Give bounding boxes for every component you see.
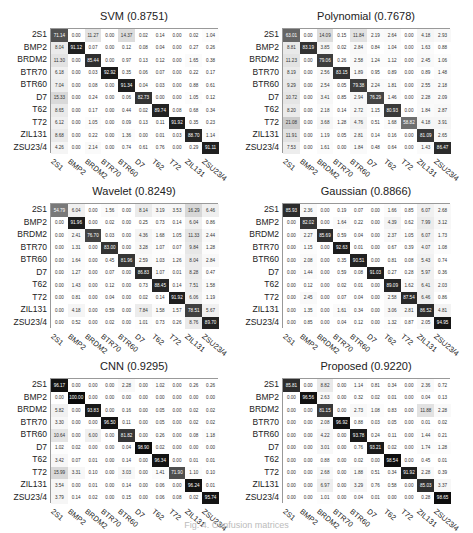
heatmap-cell: 0.06 xyxy=(118,92,135,105)
y-axis-label: 2S1 xyxy=(1,29,47,39)
heatmap-cell: 63.01 xyxy=(283,29,300,42)
heatmap-cell: 0.76 xyxy=(367,479,384,492)
heatmap-cell: 0.00 xyxy=(101,54,118,67)
heatmap-cell: 0.16 xyxy=(384,129,401,142)
y-axis-label: BRDM2 xyxy=(233,404,279,414)
heatmap-cell: 0.00 xyxy=(101,79,118,92)
heatmap-cell: 0.00 xyxy=(401,67,418,80)
heatmap-cell: 8.04 xyxy=(185,254,202,267)
heatmap-cell: 0.81 xyxy=(367,379,384,392)
heatmap-cell: 0.00 xyxy=(367,217,384,230)
heatmap-cell: 0.07 xyxy=(333,292,350,305)
heatmap-cell: 93.78 xyxy=(350,429,367,442)
heatmap-cell: 1.18 xyxy=(202,429,219,442)
heatmap-cell: 0.00 xyxy=(68,479,85,492)
heatmap-cell: 0.00 xyxy=(401,392,418,405)
heatmap-cell: 92.63 xyxy=(333,242,350,255)
heatmap-cell: 88.70 xyxy=(185,129,202,142)
heatmap-cell: 0.01 xyxy=(85,479,102,492)
heatmap-cell: 79.06 xyxy=(317,54,334,67)
heatmap-cell: 3.31 xyxy=(68,467,85,480)
heatmap-cell: 0.06 xyxy=(152,492,169,505)
heatmap-cell: 93.83 xyxy=(85,404,102,417)
heatmap-cell: 0.00 xyxy=(333,442,350,455)
y-axis-label: BMP2 xyxy=(1,217,47,227)
heatmap-cell: 0.00 xyxy=(283,404,300,417)
heatmap-cell: 0.05 xyxy=(333,129,350,142)
heatmap-cell: 2.45 xyxy=(417,54,434,67)
heatmap-cell: 3.28 xyxy=(135,242,152,255)
y-axis-label: T72 xyxy=(1,292,47,302)
heatmap-cell: 0.04 xyxy=(333,317,350,330)
heatmap-cell: 0.84 xyxy=(367,42,384,55)
chart-title: Wavelet (0.8249) xyxy=(50,185,218,197)
heatmap-grid: 63.010.0014.090.1511.842.192.640.004.182… xyxy=(282,28,450,153)
heatmap-cell: 1.06 xyxy=(434,54,451,67)
heatmap-cell: 0.14 xyxy=(367,129,384,142)
heatmap-cell: 0.04 xyxy=(101,292,118,305)
y-axis-label: ZIL131 xyxy=(1,129,47,139)
heatmap-cell: 0.00 xyxy=(101,129,118,142)
heatmap-cell: 0.00 xyxy=(68,429,85,442)
heatmap-cell: 0.00 xyxy=(401,142,418,155)
heatmap-cell: 0.00 xyxy=(401,42,418,55)
heatmap-cell: 1.74 xyxy=(417,442,434,455)
heatmap-cell: 7.51 xyxy=(185,279,202,292)
heatmap-cell: 0.00 xyxy=(300,417,317,430)
y-axis-label: D7 xyxy=(1,92,47,102)
heatmap-cell: 0.11 xyxy=(118,417,135,430)
heatmap-cell: 1.07 xyxy=(152,267,169,280)
heatmap-cell: 89.70 xyxy=(202,317,219,330)
heatmap-cell: 8.19 xyxy=(283,67,300,80)
y-axis-label: BTR60 xyxy=(233,254,279,264)
heatmap-cell: 5.82 xyxy=(51,404,68,417)
heatmap-cell: 11.33 xyxy=(185,229,202,242)
heatmap-cell: 0.00 xyxy=(169,404,186,417)
heatmap-cell: 1.01 xyxy=(317,492,334,505)
heatmap-cell: 0.32 xyxy=(350,392,367,405)
heatmap-cell: 86.83 xyxy=(135,267,152,280)
heatmap-cell: 0.00 xyxy=(85,317,102,330)
heatmap-cell: 0.00 xyxy=(283,492,300,505)
heatmap-cell: 0.14 xyxy=(68,492,85,505)
heatmap-cell: 0.00 xyxy=(68,417,85,430)
heatmap-cell: 0.00 xyxy=(367,279,384,292)
heatmap-cell: 2.44 xyxy=(202,229,219,242)
heatmap-cell: 0.00 xyxy=(384,492,401,505)
heatmap-cell: 1.63 xyxy=(417,42,434,55)
heatmap-cell: 0.00 xyxy=(118,304,135,317)
heatmap-cell: 0.00 xyxy=(169,454,186,467)
heatmap-cell: 0.05 xyxy=(152,417,169,430)
x-axis-label: T72 xyxy=(167,157,183,172)
heatmap-cell: 0.01 xyxy=(202,454,219,467)
heatmap-cell: 0.14 xyxy=(152,292,169,305)
heatmap-cell: 1.05 xyxy=(185,92,202,105)
heatmap-cell: 1.58 xyxy=(152,304,169,317)
heatmap-cell: 2.28 xyxy=(118,379,135,392)
heatmap-cell: 0.00 xyxy=(118,317,135,330)
heatmap-cell: 0.73 xyxy=(152,217,169,230)
heatmap-cell: 91.34 xyxy=(118,79,135,92)
heatmap-cell: 4.39 xyxy=(384,217,401,230)
x-axis-label: BMP2 xyxy=(298,332,319,352)
heatmap-cell: 0.00 xyxy=(283,442,300,455)
heatmap-cell: 0.04 xyxy=(350,492,367,505)
heatmap-cell: 0.05 xyxy=(384,417,401,430)
heatmap-cell: 2.09 xyxy=(434,92,451,105)
heatmap-cell: 0.14 xyxy=(169,217,186,230)
x-axis-label: BMP2 xyxy=(298,157,319,177)
heatmap-cell: 0.95 xyxy=(367,67,384,80)
heatmap-cell: 0.00 xyxy=(101,29,118,42)
heatmap-cell: 81.09 xyxy=(417,129,434,142)
heatmap-cell: 81.82 xyxy=(118,429,135,442)
heatmap-cell: 0.22 xyxy=(85,129,102,142)
heatmap-cell: 0.00 xyxy=(68,79,85,92)
heatmap-cell: 2.28 xyxy=(417,467,434,480)
heatmap-cell: 11.84 xyxy=(350,29,367,42)
heatmap-cell: 3.54 xyxy=(51,479,68,492)
heatmap-cell: 0.00 xyxy=(118,217,135,230)
heatmap-cell: 0.00 xyxy=(300,379,317,392)
heatmap-cell: 2.93 xyxy=(434,29,451,42)
heatmap-cell: 0.00 xyxy=(51,317,68,330)
heatmap-cell: 0.39 xyxy=(401,242,418,255)
